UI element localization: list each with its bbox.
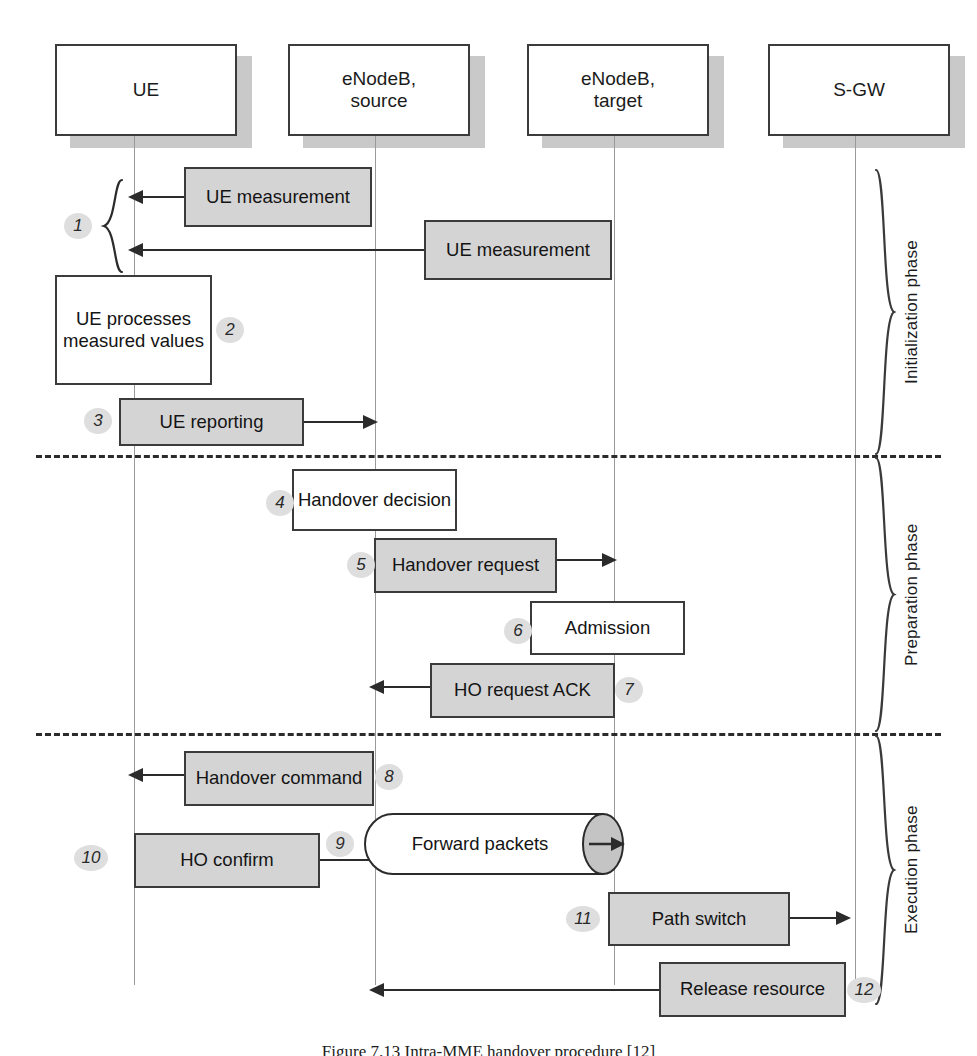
arrow-line-step1b bbox=[140, 249, 425, 251]
message-box-step3[interactable]: UE reporting bbox=[119, 398, 304, 446]
phase-label-initialization-text: Initialization phase bbox=[902, 240, 922, 384]
arrow-head-step1b bbox=[128, 243, 143, 257]
arrow-head-step8 bbox=[128, 768, 143, 782]
action-box-step2-line3: measured bbox=[63, 330, 145, 351]
step-badge-12: 12 bbox=[847, 977, 881, 1003]
phase-label-preparation: Preparation phase bbox=[898, 456, 926, 733]
arrow-line-step8 bbox=[140, 774, 185, 776]
step-badge-7: 7 bbox=[615, 677, 643, 703]
action-box-step2-line2: processes bbox=[107, 308, 191, 329]
message-box-step1a[interactable]: UE measurement bbox=[184, 167, 372, 227]
message-box-step3-line1: UE reporting bbox=[160, 411, 264, 432]
action-box-step4-line1: Handover bbox=[298, 489, 378, 510]
step-badge-7-text: 7 bbox=[624, 680, 633, 700]
arrow-line-step12 bbox=[381, 989, 660, 991]
message-box-step5-line1: Handover bbox=[392, 554, 472, 575]
phase-label-execution-text: Execution phase bbox=[902, 806, 922, 935]
step-badge-4-text: 4 bbox=[275, 493, 284, 513]
step-badge-5-text: 5 bbox=[356, 555, 365, 575]
action-box-step2-line4: values bbox=[150, 330, 203, 351]
arrow-head-step1a bbox=[128, 190, 143, 204]
cylinder-step9[interactable]: Forward packets bbox=[363, 812, 631, 876]
arrow-head-step7 bbox=[369, 680, 384, 694]
message-box-step5[interactable]: Handover request bbox=[374, 538, 557, 593]
message-box-step10-line1: HO confirm bbox=[180, 849, 274, 870]
message-box-step1a-line1: UE bbox=[206, 186, 232, 207]
arrow-head-step11 bbox=[836, 911, 851, 925]
message-box-step10[interactable]: HO confirm bbox=[134, 833, 320, 888]
action-box-step6[interactable]: Admission bbox=[530, 601, 685, 655]
message-box-step11[interactable]: Path switch bbox=[608, 892, 790, 946]
step-badge-6: 6 bbox=[504, 618, 532, 644]
actor-enodeb-target-line2: target bbox=[581, 90, 655, 112]
action-box-step6-line1: Admission bbox=[565, 617, 650, 638]
actor-sgw[interactable]: S-GW bbox=[768, 44, 950, 136]
actor-ue[interactable]: UE bbox=[55, 44, 237, 136]
message-box-step1a-line2: measurement bbox=[237, 186, 350, 207]
phase-label-preparation-text: Preparation phase bbox=[902, 523, 922, 665]
actor-sgw-line1: S-GW bbox=[833, 79, 885, 101]
message-box-step5-line2: request bbox=[477, 554, 539, 575]
figure-caption: Figure 7.13 Intra-MME handover procedure… bbox=[0, 1042, 977, 1056]
message-box-step7-line1: HO request bbox=[454, 679, 549, 700]
step-badge-3: 3 bbox=[84, 408, 112, 434]
arrow-line-step11 bbox=[789, 917, 841, 919]
step-badge-5: 5 bbox=[347, 552, 375, 578]
actor-ue-line1: UE bbox=[133, 79, 159, 101]
message-box-step7-line2: ACK bbox=[553, 679, 591, 700]
step-badge-2: 2 bbox=[216, 317, 244, 343]
actor-enodeb-source-line2: source bbox=[342, 90, 416, 112]
message-box-step8-line2: command bbox=[281, 767, 362, 788]
action-box-step4-line2: decision bbox=[383, 489, 451, 510]
arrow-head-step5 bbox=[602, 553, 617, 567]
figure-canvas: UE eNodeB, source eNodeB, target S-GW 1 … bbox=[0, 0, 977, 1056]
step-badge-6-text: 6 bbox=[513, 621, 522, 641]
message-box-step8[interactable]: Handover command bbox=[184, 751, 374, 806]
step-badge-10: 10 bbox=[74, 845, 108, 871]
phase-divider-initialization-preparation bbox=[36, 455, 941, 458]
step-badge-3-text: 3 bbox=[93, 411, 102, 431]
step-badge-12-text: 12 bbox=[855, 980, 874, 1000]
phase-label-execution: Execution phase bbox=[898, 734, 926, 1006]
arrow-head-step3 bbox=[363, 415, 378, 429]
step-badge-4: 4 bbox=[266, 490, 294, 516]
step-badge-9: 9 bbox=[326, 831, 354, 857]
phase-label-initialization: Initialization phase bbox=[898, 168, 926, 456]
action-box-step2[interactable]: UE processes measured values bbox=[55, 275, 212, 385]
phase-divider-preparation-execution bbox=[36, 733, 941, 736]
message-box-step1b-line2: measurement bbox=[477, 239, 590, 260]
step-badge-9-text: 9 bbox=[335, 834, 344, 854]
message-box-step1b-line1: UE bbox=[446, 239, 472, 260]
actor-enodeb-source[interactable]: eNodeB, source bbox=[288, 44, 470, 136]
actor-enodeb-target[interactable]: eNodeB, target bbox=[527, 44, 709, 136]
message-box-step12-line1: Release bbox=[680, 978, 748, 999]
step-badge-1: 1 bbox=[64, 213, 92, 239]
message-box-step11-line1: Path switch bbox=[652, 908, 747, 929]
actor-enodeb-source-line1: eNodeB, bbox=[342, 68, 416, 90]
figure-caption-text: Figure 7.13 Intra-MME handover procedure… bbox=[322, 1042, 655, 1056]
message-box-step8-line1: Handover bbox=[196, 767, 276, 788]
step-badge-11-text: 11 bbox=[574, 909, 592, 929]
phase-brace-execution bbox=[872, 734, 898, 1006]
arrow-line-step3 bbox=[303, 421, 365, 423]
lifeline-sgw bbox=[855, 130, 857, 985]
arrow-line-step5 bbox=[556, 559, 606, 561]
actor-enodeb-target-line1: eNodeB, bbox=[581, 68, 655, 90]
message-box-step12-line2: resource bbox=[753, 978, 825, 999]
message-box-step1b[interactable]: UE measurement bbox=[424, 220, 612, 280]
arrow-head-step12 bbox=[369, 983, 384, 997]
step-badge-8: 8 bbox=[375, 764, 403, 790]
action-box-step4[interactable]: Handover decision bbox=[292, 469, 457, 531]
phase-brace-preparation bbox=[872, 456, 898, 733]
step-badge-1-text: 1 bbox=[73, 216, 82, 236]
message-box-step12[interactable]: Release resource bbox=[659, 962, 846, 1017]
action-box-step2-line1: UE bbox=[76, 308, 102, 329]
step1-brace bbox=[100, 178, 126, 274]
step-badge-11: 11 bbox=[566, 906, 600, 932]
arrow-line-step1a bbox=[140, 196, 185, 198]
arrow-line-step7 bbox=[381, 686, 431, 688]
step-badge-2-text: 2 bbox=[225, 320, 234, 340]
message-box-step7[interactable]: HO request ACK bbox=[430, 663, 615, 718]
step-badge-10-text: 10 bbox=[82, 848, 101, 868]
step-badge-8-text: 8 bbox=[384, 767, 393, 787]
